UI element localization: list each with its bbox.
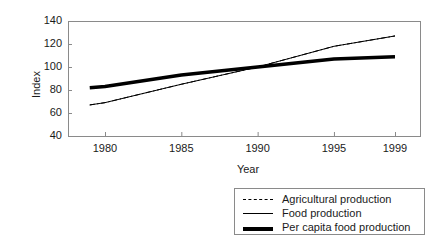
series-line-1 <box>90 36 395 105</box>
legend-label: Per capita food production <box>282 221 410 233</box>
axis-ticks <box>68 22 396 137</box>
data-series-group <box>90 36 395 105</box>
thick-line-swatch <box>241 221 275 233</box>
dashed-line-swatch <box>241 193 275 205</box>
chart-figure: Index Year 140120100806040 1980198519901… <box>0 0 448 240</box>
chart-legend: Agricultural productionFood productionPe… <box>234 188 425 235</box>
legend-item: Food production <box>241 206 424 220</box>
legend-label: Agricultural production <box>282 193 391 205</box>
legend-item: Agricultural production <box>241 192 424 206</box>
thin-line-swatch <box>241 207 275 219</box>
legend-label: Food production <box>282 207 362 219</box>
legend-item: Per capita food production <box>241 220 424 234</box>
series-line-2 <box>90 57 395 88</box>
plot-frame <box>69 22 421 137</box>
